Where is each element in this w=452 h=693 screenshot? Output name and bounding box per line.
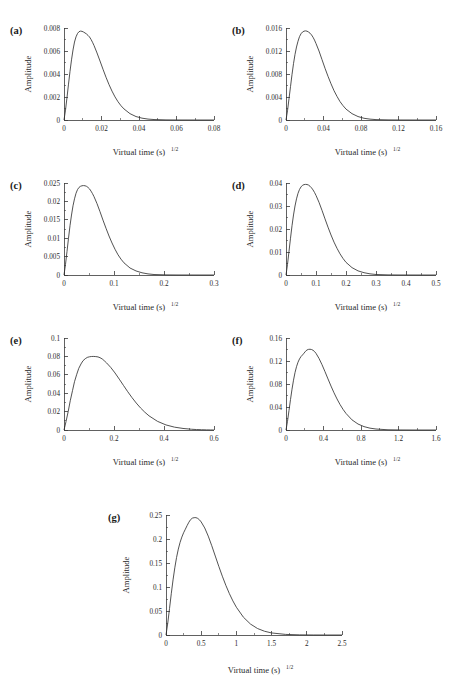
chart-panel-d: (d)00.010.020.030.0400.10.20.30.40.5Ampl… [230, 169, 446, 319]
panel-letter-g: (g) [108, 512, 121, 524]
y-axis-title-g: Amplitude [121, 556, 131, 593]
y-tick-label-a-1: 0.002 [44, 94, 61, 102]
y-tick-label-e-3: 0.06 [47, 371, 60, 379]
x-axis-title-f: Virtual time (s)1/2 [335, 456, 401, 468]
x-tick-label-a-4: 0.08 [208, 125, 221, 133]
y-tick-label-b-2: 0.008 [266, 71, 283, 79]
x-tick-label-b-3: 0.12 [392, 125, 405, 133]
data-curve-d [286, 184, 436, 275]
x-tick-label-d-4: 0.4 [402, 280, 411, 288]
y-tick-label-c-2: 0.01 [47, 235, 60, 243]
x-axis-title-base-b: Virtual time (s) [335, 147, 388, 157]
x-tick-label-f-3: 1.2 [394, 435, 403, 443]
figure-multi-panel-amplitude-curves: (a)00.0020.0040.0060.00800.020.040.060.0… [0, 0, 452, 693]
plot-svg-g: (g)00.050.10.150.20.2500.511.522.5Amplit… [104, 497, 354, 687]
panel-letter-d: (d) [232, 180, 245, 192]
y-tick-label-e-0: 0 [56, 427, 60, 435]
y-tick-label-d-4: 0.04 [269, 180, 282, 188]
chart-panel-c: (c)00.0050.010.0150.020.02500.10.20.3Amp… [8, 169, 224, 319]
x-axis-title-c: Virtual time (s)1/2 [113, 301, 179, 313]
x-ticks-f: 00.40.81.21.6 [284, 426, 441, 443]
chart-panel-a: (a)00.0020.0040.0060.00800.020.040.060.0… [8, 14, 224, 164]
y-tick-label-a-4: 0.008 [44, 25, 61, 33]
chart-panel-e: (e)00.020.040.060.080.100.20.40.6Amplitu… [8, 324, 224, 474]
y-tick-label-e-1: 0.02 [47, 408, 60, 416]
x-tick-label-a-3: 0.06 [170, 125, 183, 133]
y-tick-label-d-3: 0.03 [269, 203, 282, 211]
data-curve-c [64, 186, 214, 275]
y-ticks-e: 00.020.040.060.080.1 [47, 335, 68, 435]
y-tick-label-e-4: 0.08 [47, 353, 60, 361]
axes-a [64, 28, 214, 120]
y-ticks-f: 00.040.080.120.16 [269, 335, 290, 435]
x-tick-label-e-3: 0.6 [210, 435, 219, 443]
x-axis-title-base-g: Virtual time (s) [228, 665, 281, 675]
plot-svg-a: (a)00.0020.0040.0060.00800.020.040.060.0… [8, 14, 224, 164]
y-tick-label-f-3: 0.12 [269, 358, 282, 366]
x-ticks-d: 00.10.20.30.40.5 [284, 271, 441, 288]
y-ticks-d: 00.010.020.030.04 [269, 180, 290, 280]
x-ticks-e: 00.20.40.6 [62, 426, 219, 443]
x-axis-title-b: Virtual time (s)1/2 [335, 146, 401, 158]
figure-header-text [0, 0, 452, 8]
x-axis-title-base-e: Virtual time (s) [113, 457, 166, 467]
y-tick-label-c-1: 0.005 [44, 253, 61, 261]
y-tick-label-a-2: 0.004 [44, 71, 61, 79]
axes-g [166, 515, 342, 635]
x-tick-label-c-1: 0.1 [110, 280, 119, 288]
x-axis-title-base-a: Virtual time (s) [113, 147, 166, 157]
y-tick-label-c-0: 0 [56, 272, 60, 280]
y-tick-label-d-0: 0 [278, 272, 282, 280]
y-tick-label-f-0: 0 [278, 427, 282, 435]
x-axis-title-g: Virtual time (s)1/2 [228, 664, 294, 676]
data-curve-g [166, 518, 342, 635]
y-axis-title-f: Amplitude [245, 365, 255, 402]
x-tick-label-e-0: 0 [62, 435, 66, 443]
x-tick-label-d-2: 0.2 [342, 280, 351, 288]
y-ticks-g: 00.050.10.150.20.25 [149, 512, 170, 640]
panel-letter-f: (f) [232, 335, 243, 347]
plot-svg-b: (b)00.0040.0080.0120.01600.040.080.120.1… [230, 14, 446, 164]
y-tick-label-d-1: 0.01 [269, 249, 282, 257]
y-tick-label-a-3: 0.006 [44, 48, 61, 56]
y-tick-label-g-0: 0 [158, 632, 162, 640]
y-tick-label-b-4: 0.016 [266, 25, 283, 33]
panel-letter-a: (a) [10, 25, 23, 37]
y-axis-title-b: Amplitude [245, 55, 255, 92]
y-tick-label-c-5: 0.025 [44, 180, 61, 188]
x-tick-label-d-5: 0.5 [432, 280, 441, 288]
x-tick-label-a-2: 0.04 [133, 125, 146, 133]
x-tick-label-a-0: 0 [62, 125, 66, 133]
x-axis-title-base-f: Virtual time (s) [335, 457, 388, 467]
x-tick-label-g-2: 1 [235, 640, 239, 648]
data-curve-b [286, 31, 436, 120]
panel-letter-e: (e) [10, 335, 22, 347]
x-axis-title-base-d: Virtual time (s) [335, 302, 388, 312]
x-axis-title-sup-f: 1/2 [393, 456, 400, 462]
x-tick-label-f-0: 0 [284, 435, 288, 443]
y-tick-label-f-4: 0.16 [269, 335, 282, 343]
y-tick-label-c-3: 0.015 [44, 216, 61, 224]
y-tick-label-f-1: 0.04 [269, 404, 282, 412]
y-axis-title-a: Amplitude [23, 55, 33, 92]
axes-c [64, 183, 214, 275]
y-tick-label-g-2: 0.1 [153, 584, 162, 592]
x-tick-label-f-4: 1.6 [432, 435, 441, 443]
y-tick-label-b-3: 0.012 [266, 48, 283, 56]
x-tick-label-b-2: 0.08 [355, 125, 368, 133]
x-tick-label-b-0: 0 [284, 125, 288, 133]
data-curve-e [64, 356, 214, 430]
x-tick-label-c-2: 0.2 [160, 280, 169, 288]
x-tick-label-c-3: 0.3 [210, 280, 219, 288]
x-tick-label-d-0: 0 [284, 280, 288, 288]
x-ticks-a: 00.020.040.060.08 [62, 116, 220, 133]
y-tick-label-g-4: 0.2 [153, 536, 162, 544]
plot-svg-e: (e)00.020.040.060.080.100.20.40.6Amplitu… [8, 324, 224, 474]
x-tick-label-e-1: 0.2 [110, 435, 119, 443]
x-tick-label-c-0: 0 [62, 280, 66, 288]
x-tick-label-f-2: 0.8 [357, 435, 366, 443]
x-tick-label-b-4: 0.16 [430, 125, 443, 133]
x-axis-title-sup-c: 1/2 [171, 301, 178, 307]
plot-svg-d: (d)00.010.020.030.0400.10.20.30.40.5Ampl… [230, 169, 446, 319]
x-ticks-g: 00.511.522.5 [164, 631, 347, 648]
